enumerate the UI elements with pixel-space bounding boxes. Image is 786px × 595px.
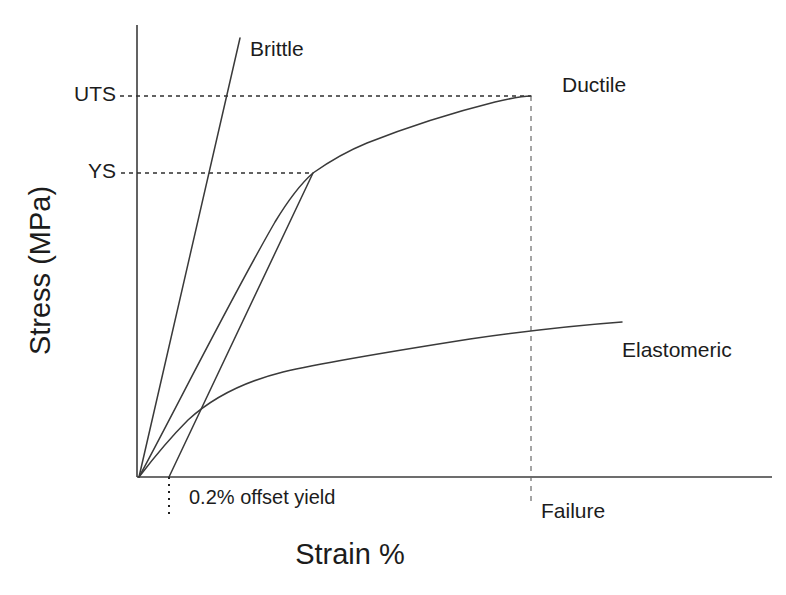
y-axis-title: Stress (MPa): [26, 141, 55, 401]
x-axis-title: Strain %: [0, 540, 700, 569]
annotation-label-failure: Failure: [541, 500, 605, 521]
curve-label-ductile: Ductile: [562, 74, 626, 95]
offset-yield-line: [169, 173, 313, 477]
plot-canvas: [0, 0, 786, 595]
elastomeric-curve: [139, 322, 622, 477]
axis-tick-label-uts: UTS: [74, 83, 116, 104]
curve-label-elastomeric: Elastomeric: [622, 339, 732, 360]
annotation-label-offset-yield: 0.2% offset yield: [189, 487, 335, 507]
ductile-curve: [139, 96, 531, 477]
axis-tick-label-ys: YS: [88, 160, 116, 181]
stress-strain-figure: UTS YS Brittle Ductile Elastomeric Failu…: [0, 0, 786, 595]
brittle-curve: [139, 38, 240, 477]
curve-label-brittle: Brittle: [250, 38, 304, 59]
